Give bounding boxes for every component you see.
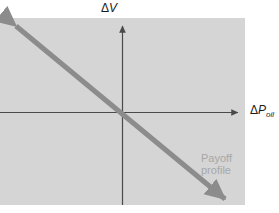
payoff-profile-annotation: Payoff profile xyxy=(201,152,249,176)
x-axis-subscript: oil xyxy=(266,110,274,119)
x-axis-label: ΔPoil xyxy=(250,103,274,119)
diagram-canvas xyxy=(0,0,279,213)
payoff-profile-diagram: ΔV ΔPoil Payoff profile xyxy=(0,0,279,213)
x-axis-variable: P xyxy=(258,103,266,117)
y-axis-delta-symbol: Δ xyxy=(101,1,109,15)
y-axis-variable: V xyxy=(109,1,117,15)
payoff-annotation-line-1: Payoff xyxy=(201,152,249,164)
payoff-annotation-line-2: profile xyxy=(201,164,249,176)
x-axis-delta-symbol: Δ xyxy=(250,103,258,117)
y-axis-label: ΔV xyxy=(101,1,117,15)
